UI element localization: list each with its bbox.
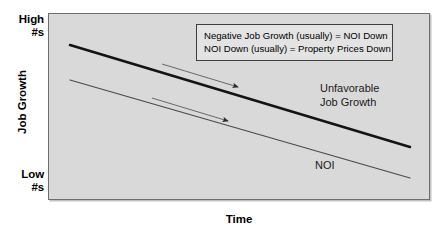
annotation-noi: NOI [315,159,335,171]
y-axis-top-sub-text: #s [0,26,44,39]
y-axis-top-label-text: High [19,13,44,25]
annotation-unfavorable-job-growth: Unfavorable Job Growth [320,81,379,109]
job-growth-noi-figure: High #s Low #s Job Growth Time Unfavorab… [0,0,448,235]
y-axis-bottom-sub-text: #s [0,181,44,194]
annotation-unfavorable-line1: Unfavorable [320,81,379,95]
y-axis-bottom-label: Low #s [0,168,44,194]
y-axis-bottom-label-text: Low [21,168,44,180]
y-axis-title: Job Growth [16,60,28,144]
annotation-unfavorable-line2: Job Growth [320,95,379,109]
callout-box: Negative Job Growth (usually) = NOI Down… [196,24,393,61]
x-axis-title: Time [48,213,430,225]
callout-line-2: NOI Down (usually) = Property Prices Dow… [204,42,385,55]
y-axis-top-label: High #s [0,13,44,39]
callout-line-1: Negative Job Growth (usually) = NOI Down [204,29,385,42]
